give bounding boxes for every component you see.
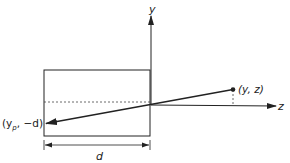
z-axis-label: z [277,100,284,113]
projection-diagram: y z (y, z) (yp, −d) d [0,0,290,163]
projection-box [44,70,150,136]
projected-point-label: (yp, −d) [2,117,43,132]
projected-label-main: (y [2,117,12,129]
projector-line [46,90,233,124]
point-marker [231,87,236,92]
point-label: (y, z) [238,83,264,95]
z-axis [151,105,276,106]
y-axis-label: y [148,3,156,16]
dimension-label: d [96,150,104,163]
projected-label-rest: , −d) [17,117,43,129]
